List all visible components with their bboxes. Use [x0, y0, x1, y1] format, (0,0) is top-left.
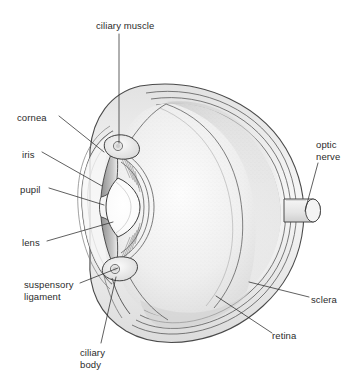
label-sclera: sclera — [311, 294, 337, 306]
label-optic-nerve-line2: nerve — [316, 151, 340, 162]
label-suspensory-ligament-line1: suspensory — [24, 279, 74, 290]
optic-nerve-stub — [284, 199, 321, 222]
label-cornea: cornea — [17, 112, 47, 124]
label-retina: retina — [272, 330, 296, 342]
label-iris: iris — [22, 149, 35, 161]
eye-anatomy-diagram: ciliary muscle cornea iris pupil lens su… — [0, 0, 362, 389]
label-suspensory-ligament-line2: ligament — [24, 291, 61, 302]
label-optic-nerve: opticnerve — [316, 139, 340, 162]
label-lens: lens — [22, 237, 40, 249]
label-ciliary-muscle: ciliary muscle — [96, 20, 154, 32]
label-ciliary-body-line1: ciliary — [80, 347, 105, 358]
label-pupil: pupil — [20, 184, 41, 196]
label-optic-nerve-line1: optic — [316, 139, 337, 150]
label-suspensory-ligament: suspensoryligament — [24, 279, 74, 302]
label-ciliary-body: ciliarybody — [80, 347, 105, 370]
eye-diagram-drawing — [0, 0, 362, 389]
label-ciliary-body-line2: body — [80, 359, 101, 370]
